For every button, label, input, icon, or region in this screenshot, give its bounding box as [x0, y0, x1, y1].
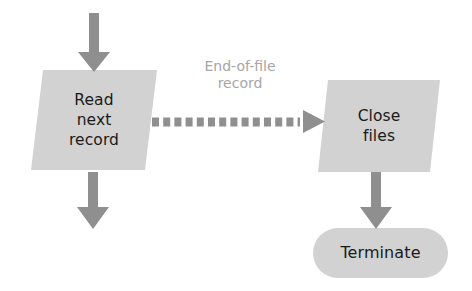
flowchart-graphic: [0, 0, 472, 291]
edge-entry-to-read-arrow: [78, 13, 110, 72]
edge-close-to-terminate-arrow: [360, 172, 392, 229]
node-close-files-shape: [318, 80, 440, 172]
edge-read-to-exit-arrow: [77, 172, 109, 229]
flowchart-canvas: Read next record Close files Terminate E…: [0, 0, 472, 291]
edge-read-to-close-arrow: [152, 110, 325, 133]
node-read-next-record-shape: [31, 70, 157, 170]
node-terminate-shape: [313, 228, 448, 278]
